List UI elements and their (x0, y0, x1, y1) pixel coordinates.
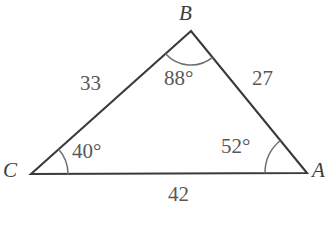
side-length-label-cb: 33 (80, 73, 101, 94)
vertex-label-c: C (3, 160, 17, 181)
angle-arc-b (166, 54, 213, 65)
vertex-label-a: A (312, 160, 325, 181)
triangle-figure (0, 0, 325, 237)
angle-measure-label-b: 88° (164, 68, 193, 89)
side-length-label-ba: 27 (252, 68, 273, 89)
angle-measure-label-c: 40° (72, 141, 101, 162)
triangle-diagram: B C A 33 27 42 88° 40° 52° (0, 0, 325, 237)
angle-arc-c (59, 149, 68, 174)
side-length-label-ca: 42 (168, 184, 189, 205)
vertex-label-b: B (179, 3, 192, 24)
angle-measure-label-a: 52° (221, 136, 250, 157)
angle-arc-a (265, 141, 280, 174)
